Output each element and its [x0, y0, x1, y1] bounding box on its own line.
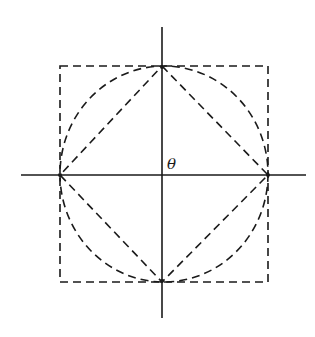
vertex-right: [266, 173, 270, 177]
dashed-diamond: [60, 66, 268, 282]
vertex-bottom: [160, 279, 164, 283]
theta-label: θ: [167, 155, 176, 173]
dashed-circle: [60, 66, 268, 282]
vertex-top: [160, 65, 164, 69]
dashed-square: [60, 66, 268, 282]
vertex-left: [58, 173, 62, 177]
geometric-diagram: θ: [0, 0, 315, 337]
